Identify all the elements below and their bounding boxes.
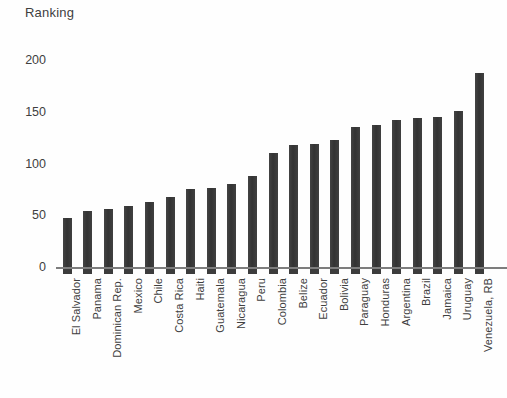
x-axis-category-label: Brazil (421, 278, 432, 306)
y-axis-tick-label: 50 (32, 208, 46, 222)
bar (372, 125, 381, 268)
bar (330, 140, 339, 268)
y-axis: 200150100500 (0, 0, 52, 398)
x-axis-tick (454, 269, 463, 274)
bar (269, 153, 278, 268)
x-axis-tick (433, 269, 442, 274)
x-axis-category-label: Ecuador (318, 278, 329, 320)
x-axis-tick (166, 269, 175, 274)
x-axis-category-label: Guatemala (215, 278, 226, 333)
x-axis-tick (63, 269, 72, 274)
bar (454, 111, 463, 268)
bar (186, 189, 195, 268)
x-axis-category-label: Nicaragua (236, 278, 247, 329)
x-axis-category-label: Costa Rica (174, 278, 185, 333)
bar (166, 197, 175, 268)
bar (104, 209, 113, 268)
bar (248, 176, 257, 268)
bar (351, 127, 360, 268)
bar (413, 118, 422, 268)
x-axis-tick (269, 269, 278, 274)
x-axis-category-label: Paraguay (359, 278, 370, 326)
x-axis-tick (330, 269, 339, 274)
x-axis-tick (413, 269, 422, 274)
x-axis-category-label: Bolivia (339, 278, 350, 311)
y-axis-tick-label: 150 (25, 105, 46, 119)
bar (63, 218, 72, 268)
bar (83, 211, 92, 268)
bar (145, 202, 154, 268)
x-axis-tick (475, 269, 484, 274)
x-axis-tick (289, 269, 298, 274)
x-axis-tick (124, 269, 133, 274)
plot-area (56, 30, 507, 268)
bar (227, 184, 236, 268)
x-axis-tick (207, 269, 216, 274)
x-axis-category-label: Jamaica (442, 278, 453, 320)
x-axis-category-label: Dominican Rep. (112, 278, 123, 358)
bar (310, 144, 319, 268)
x-axis-tick (372, 269, 381, 274)
x-axis-category-label: Peru (256, 278, 267, 302)
y-axis-tick-label: 200 (25, 53, 46, 67)
y-axis-tick-label: 100 (25, 157, 46, 171)
bar (124, 206, 133, 268)
x-axis-category-label: Argentina (401, 278, 412, 326)
x-axis-tick (351, 269, 360, 274)
x-axis-tick (104, 269, 113, 274)
x-axis-tick (310, 269, 319, 274)
bar (475, 73, 484, 268)
x-axis-category-label: Chile (153, 278, 164, 304)
x-axis-tick (83, 269, 92, 274)
x-axis-category-label: Mexico (133, 278, 144, 313)
x-axis-category-label: Haiti (195, 278, 206, 301)
x-axis-tick (392, 269, 401, 274)
x-axis-category-label: Panama (92, 278, 103, 320)
bar (289, 145, 298, 268)
x-axis-tick (145, 269, 154, 274)
bar (207, 188, 216, 268)
x-axis-category-label: Colombia (277, 278, 288, 325)
y-axis-tick-label: 0 (39, 260, 46, 274)
bar (433, 117, 442, 268)
bar (392, 120, 401, 268)
x-axis-tick (227, 269, 236, 274)
x-axis-category-label: Belize (298, 278, 309, 309)
x-axis-category-label: Venezuela, RB (483, 278, 494, 352)
bar-chart: Ranking 200150100500 El SalvadorPanamaDo… (0, 0, 507, 398)
x-axis-tick (186, 269, 195, 274)
x-axis-category-label: Uruguay (462, 278, 473, 320)
x-axis-category-label: Honduras (380, 278, 391, 327)
x-axis-category-label: El Salvador (71, 278, 82, 335)
x-axis-tick (248, 269, 257, 274)
